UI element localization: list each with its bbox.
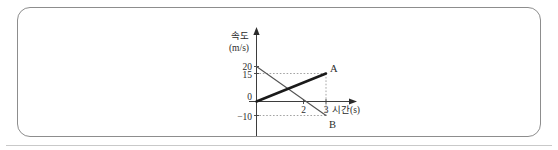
y-axis xyxy=(253,27,259,136)
y-axis-arrow-icon xyxy=(253,27,259,35)
figure-page: 속도 (m/s) 20 15 0 −10 2 3 시간(s) A B xyxy=(0,0,558,150)
x-axis-label: 시간(s) xyxy=(332,105,360,116)
chart-svg: 속도 (m/s) 20 15 0 −10 2 3 시간(s) A B xyxy=(198,18,388,143)
page-rule-line xyxy=(6,145,552,146)
series-label-b: B xyxy=(329,119,336,130)
series-label-a: A xyxy=(330,63,338,74)
y-tick-label-minus10: −10 xyxy=(237,112,252,122)
series-line-a xyxy=(257,74,327,102)
x-tick-label-2: 2 xyxy=(301,105,306,115)
figure-frame: 속도 (m/s) 20 15 0 −10 2 3 시간(s) A B xyxy=(17,7,541,137)
y-axis-label-line1: 속도 xyxy=(231,31,249,41)
guide-lines xyxy=(256,74,326,116)
y-tick-label-15: 15 xyxy=(243,70,253,80)
velocity-time-chart: 속도 (m/s) 20 15 0 −10 2 3 시간(s) A B xyxy=(198,18,388,143)
y-tick-label-0: 0 xyxy=(247,92,252,102)
y-axis-label-line2: (m/s) xyxy=(229,43,249,54)
x-tick-label-3: 3 xyxy=(324,105,329,115)
x-axis-arrow-icon xyxy=(349,98,357,104)
